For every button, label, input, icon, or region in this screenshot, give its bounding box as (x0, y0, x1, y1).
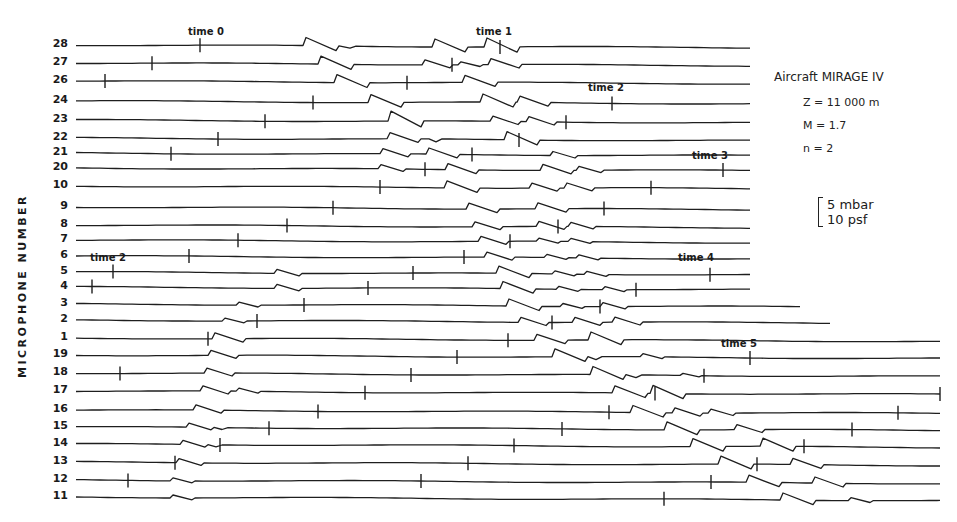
microphone-label: 22 (42, 131, 68, 142)
sonic-boom-chart: MICROPHONE NUMBER 2827262423222120109876… (0, 0, 957, 522)
microphone-trace (76, 282, 750, 294)
microphone-label: 18 (42, 366, 68, 377)
microphone-label: 17 (42, 384, 68, 395)
scale-psf: 10 psf (827, 212, 874, 227)
microphone-trace (76, 94, 750, 107)
microphone-trace (76, 132, 750, 145)
microphone-label: 1 (42, 331, 68, 342)
microphone-trace (76, 75, 750, 88)
microphone-label: 4 (42, 280, 68, 291)
time-marker-label: time 1 (476, 26, 512, 37)
microphone-trace (76, 221, 750, 229)
microphone-trace (76, 367, 940, 380)
microphone-label: 8 (42, 218, 68, 229)
time-marker-label: time 2 (588, 82, 624, 93)
microphone-label: 15 (42, 420, 68, 431)
microphone-trace (76, 405, 940, 417)
microphone-label: 20 (42, 161, 68, 172)
microphone-trace (76, 38, 750, 53)
pressure-scale-bar: 5 mbar 10 psf (818, 197, 874, 227)
microphone-trace (76, 422, 940, 435)
microphone-label: 24 (42, 94, 68, 105)
microphone-label: 21 (42, 146, 68, 157)
time-marker-label: time 2 (90, 252, 126, 263)
n-label: n = 2 (803, 142, 833, 155)
microphone-label: 23 (42, 113, 68, 124)
microphone-label: 27 (42, 56, 68, 67)
microphone-label: 11 (42, 490, 68, 501)
microphone-label: 2 (42, 313, 68, 324)
microphone-trace (76, 181, 750, 193)
microphone-trace (76, 349, 940, 362)
microphone-trace (76, 475, 940, 487)
scale-mbar: 5 mbar (827, 197, 874, 212)
microphone-trace (76, 111, 750, 127)
microphone-label: 14 (42, 437, 68, 448)
microphone-trace (76, 252, 750, 260)
microphone-trace (76, 203, 750, 213)
time-marker-label: time 4 (678, 252, 714, 263)
microphone-trace (76, 438, 940, 451)
microphone-trace (76, 385, 940, 398)
microphone-trace (76, 299, 800, 311)
microphone-label: 7 (42, 233, 68, 244)
microphone-trace (76, 317, 830, 325)
microphone-label: 5 (42, 265, 68, 276)
microphone-label: 3 (42, 297, 68, 308)
microphone-label: 16 (42, 403, 68, 414)
microphone-trace (76, 236, 750, 244)
microphone-trace (76, 493, 940, 505)
mach-label: M = 1.7 (803, 119, 846, 132)
time-marker-label: time 5 (721, 338, 757, 349)
microphone-label: 26 (42, 74, 68, 85)
microphone-label: 28 (42, 38, 68, 49)
microphone-trace (76, 456, 940, 469)
y-axis-label: MICROPHONE NUMBER (16, 194, 29, 378)
microphone-trace (76, 148, 750, 158)
microphone-label: 9 (42, 200, 68, 211)
microphone-label: 19 (42, 348, 68, 359)
microphone-trace (76, 164, 750, 174)
microphone-label: 13 (42, 455, 68, 466)
time-marker-label: time 0 (188, 26, 224, 37)
microphone-label: 12 (42, 473, 68, 484)
microphone-trace (76, 56, 750, 69)
time-marker-label: time 3 (692, 150, 728, 161)
altitude-label: Z = 11 000 m (803, 96, 879, 109)
microphone-label: 10 (42, 179, 68, 190)
microphone-label: 6 (42, 249, 68, 260)
aircraft-label: Aircraft MIRAGE IV (774, 70, 884, 84)
